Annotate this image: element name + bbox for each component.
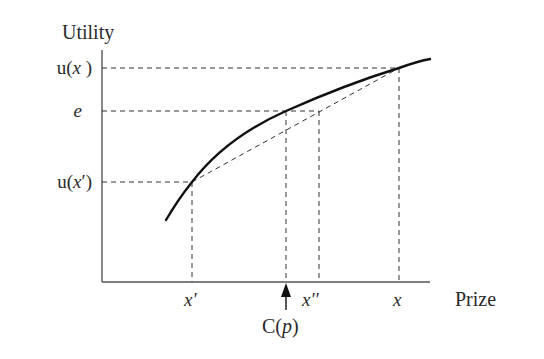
label-c-p-text: C(p) — [262, 315, 299, 337]
label-x: x — [393, 290, 401, 309]
label-certainty-equivalent: C(p) — [262, 316, 299, 336]
label-x-prime: x′ — [184, 290, 197, 309]
x-axis-title: Prize — [455, 289, 496, 309]
y-axis-title: Utility — [62, 22, 114, 42]
label-u-x: u(x ) — [30, 58, 92, 77]
utility-curve — [166, 59, 430, 220]
label-x-double-prime: x′′ — [302, 290, 319, 309]
c-p-arrow-head — [281, 283, 291, 297]
chord-line — [192, 68, 399, 182]
label-u-x-prime: u(x′) — [20, 172, 92, 191]
label-e: e — [30, 101, 82, 120]
